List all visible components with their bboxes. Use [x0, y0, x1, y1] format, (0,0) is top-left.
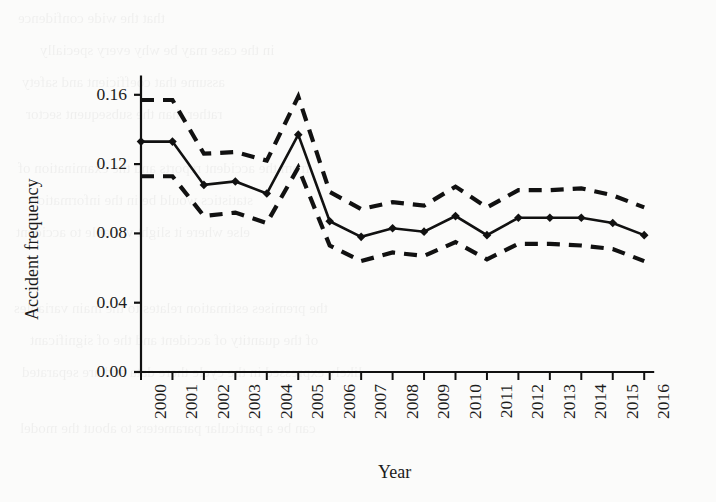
x-tick-label: 2010 — [465, 384, 486, 444]
x-tick-label: 2013 — [559, 384, 580, 444]
x-tick-label: 2006 — [339, 384, 360, 444]
x-tick-label: 2007 — [370, 384, 391, 444]
figure-page: that the wide confidencein the case may … — [0, 0, 716, 502]
x-tick-label: 2012 — [527, 384, 548, 444]
x-tick-label: 2002 — [213, 384, 234, 444]
y-tick-label: 0.16 — [96, 84, 127, 105]
upper-confidence-bound-line — [141, 97, 644, 210]
x-tick-label: 2009 — [433, 384, 454, 444]
y-tick-label: 0.12 — [96, 153, 127, 174]
x-tick-label: 2016 — [653, 384, 674, 444]
x-tick-label: 2011 — [496, 384, 517, 444]
x-tick-label: 2005 — [307, 384, 328, 444]
x-tick-label: 2000 — [150, 384, 171, 444]
y-axis-title: Accident frequency — [22, 179, 43, 320]
lower-confidence-bound-line — [141, 168, 644, 262]
x-tick-label: 2015 — [622, 384, 643, 444]
y-tick-label: 0.04 — [96, 292, 127, 313]
x-tick-label: 2004 — [276, 384, 297, 444]
x-tick-label: 2008 — [402, 384, 423, 444]
x-axis-title: Year — [378, 462, 411, 483]
x-tick-label: 2001 — [181, 384, 202, 444]
accident-frequency-markers — [137, 130, 649, 241]
accident-frequency-line — [141, 135, 644, 237]
x-tick-label: 2014 — [590, 384, 611, 444]
y-tick-label: 0.00 — [96, 361, 127, 382]
x-tick-label: 2003 — [244, 384, 265, 444]
y-tick-label: 0.08 — [96, 222, 127, 243]
